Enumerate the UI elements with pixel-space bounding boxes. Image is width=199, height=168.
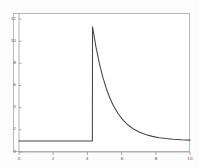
x-tick-label-4: 4 bbox=[81, 157, 93, 161]
y-tick-label-6: 6 bbox=[2, 83, 16, 87]
y-tick-label-12: 12 bbox=[2, 17, 16, 21]
x-tick-label-8: 8 bbox=[150, 157, 162, 161]
impulse-response-curve bbox=[19, 27, 190, 141]
y-tick-label-8: 8 bbox=[2, 61, 16, 65]
x-tick-label-0: 0 bbox=[13, 157, 25, 161]
x-axis-ticks bbox=[19, 152, 190, 155]
y-tick-label-10: 10 bbox=[2, 39, 16, 43]
y-tick-label-4: 4 bbox=[2, 105, 16, 109]
x-tick-label-2: 2 bbox=[47, 157, 59, 161]
y-tick-label-0: 0 bbox=[2, 150, 16, 154]
chart-figure: 12 10 8 6 4 2 0 0 2 4 6 8 10 bbox=[0, 0, 199, 168]
x-tick-label-10: 10 bbox=[184, 157, 196, 161]
chart-canvas bbox=[0, 0, 199, 168]
y-tick-label-2: 2 bbox=[2, 127, 16, 131]
x-tick-label-6: 6 bbox=[116, 157, 128, 161]
